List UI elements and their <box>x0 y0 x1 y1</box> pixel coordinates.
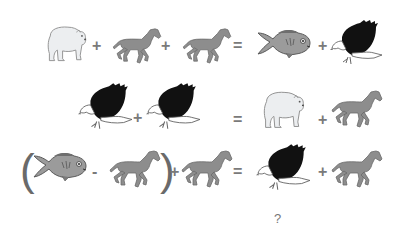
equals-sign: = <box>233 112 242 128</box>
bear-image <box>45 22 89 64</box>
plus-sign: + <box>318 38 327 54</box>
plus-sign: + <box>170 164 179 180</box>
plus-sign: + <box>318 164 327 180</box>
eagle-image <box>78 79 134 135</box>
minus-sign: - <box>92 164 97 180</box>
eagle-image <box>256 140 312 196</box>
plus-sign: + <box>133 110 142 126</box>
horse-image <box>180 26 234 64</box>
equals-sign: = <box>233 38 242 54</box>
fish-image <box>32 150 88 182</box>
question-mark: ? <box>274 211 281 226</box>
plus-sign: + <box>92 38 101 54</box>
plus-sign: + <box>161 38 170 54</box>
eagle-image <box>146 79 202 135</box>
horse-image <box>108 148 162 188</box>
horse-image <box>330 148 384 188</box>
equals-sign: = <box>233 164 242 180</box>
eagle-image <box>330 16 384 70</box>
horse-image <box>180 148 234 188</box>
horse-image <box>330 88 384 128</box>
bear-image <box>261 87 307 131</box>
horse-image <box>110 26 164 64</box>
plus-sign: + <box>318 112 327 128</box>
fish-image <box>256 27 312 59</box>
